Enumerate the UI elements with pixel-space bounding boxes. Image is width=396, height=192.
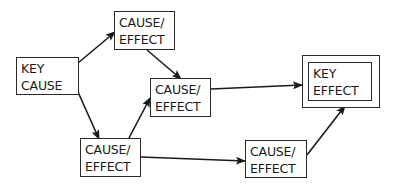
node-label-line1: CAUSE/ <box>155 81 210 98</box>
node-label-line1: CAUSE/ <box>250 143 306 160</box>
arrow-keycause-to-bottomleft <box>78 92 99 139</box>
diagram-canvas: KEY CAUSE CAUSE/ EFFECT CAUSE/ EFFECT CA… <box>0 0 396 192</box>
node-label-line2: EFFECT <box>250 160 306 177</box>
arrow-top-to-middle <box>147 50 181 79</box>
arrow-bottomleft-to-middle <box>129 98 150 138</box>
node-key-effect: KEY EFFECT <box>308 62 372 101</box>
arrow-keycause-to-top <box>78 32 115 63</box>
node-cause-effect-top: CAUSE/ EFFECT <box>114 11 175 50</box>
node-label-line2: EFFECT <box>313 82 371 99</box>
node-label-line1: CAUSE/ <box>85 141 140 158</box>
node-label-line2: EFFECT <box>155 98 210 115</box>
node-cause-effect-middle: CAUSE/ EFFECT <box>150 78 211 117</box>
arrow-bottomright-to-keyeffect <box>307 106 345 155</box>
node-label-line1: CAUSE/ <box>119 14 174 31</box>
node-label-line2: EFFECT <box>119 31 174 48</box>
node-cause-effect-bottom-left: CAUSE/ EFFECT <box>80 138 141 177</box>
arrow-middle-to-keyeffect <box>211 85 302 89</box>
node-cause-effect-bottom-right: CAUSE/ EFFECT <box>245 140 307 178</box>
node-label-line2: EFFECT <box>85 158 140 175</box>
node-label-line1: KEY <box>21 60 78 77</box>
node-label-line1: KEY <box>313 65 371 82</box>
arrow-bottomleft-to-bottomright <box>141 157 245 161</box>
node-label-line2: CAUSE <box>21 77 78 94</box>
node-key-cause: KEY CAUSE <box>16 57 79 95</box>
